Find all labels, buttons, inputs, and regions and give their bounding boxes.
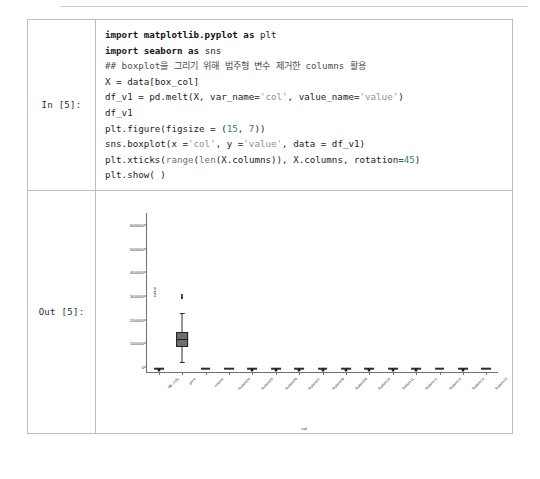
y-tick-label: 100000 bbox=[130, 341, 144, 346]
code-line-10: plt.show( ) bbox=[105, 169, 166, 180]
x-tick-label: feature15 bbox=[495, 377, 509, 391]
x-tick-mark bbox=[299, 372, 300, 375]
x-tick-label: feature09 bbox=[354, 377, 368, 391]
code-line-2: import seaborn as sns bbox=[105, 45, 221, 56]
code-line-7: plt.figure(figsize = (15, 7)) bbox=[105, 123, 265, 134]
x-tick-mark bbox=[252, 372, 253, 375]
x-tick-mark bbox=[159, 372, 160, 375]
code-editor[interactable]: import matplotlib.pyplot as plt import s… bbox=[105, 27, 512, 183]
y-tick-label: 600000 bbox=[130, 222, 144, 227]
x-tick-label: feature11 bbox=[401, 377, 414, 390]
x-tick-label: feature13 bbox=[448, 377, 462, 391]
y-axis-label: value bbox=[152, 287, 157, 297]
output-cell-row: Out [5]: value 0100000200000300000400000… bbox=[28, 191, 512, 433]
x-tick-label: feature10 bbox=[378, 377, 392, 391]
x-tick-label: feature05 bbox=[261, 377, 275, 391]
box-flat bbox=[481, 368, 491, 369]
notebook-cells-table: In [5]: import matplotlib.pyplot as plt … bbox=[27, 19, 513, 434]
code-cell[interactable]: import matplotlib.pyplot as plt import s… bbox=[96, 20, 512, 190]
output-cell: value 0100000200000300000400000500000600… bbox=[96, 191, 512, 433]
box-flat bbox=[224, 368, 234, 369]
y-tick-mark bbox=[144, 248, 147, 249]
x-tick-mark bbox=[323, 372, 324, 375]
y-tick-mark bbox=[144, 272, 147, 273]
x-tick-mark bbox=[416, 372, 417, 375]
boxplot-axes: value 0100000200000300000400000500000600… bbox=[146, 213, 498, 373]
code-line-4: X = data[box_col] bbox=[105, 76, 199, 87]
input-prompt-gutter: In [5]: bbox=[28, 20, 96, 190]
y-tick-mark bbox=[144, 343, 147, 344]
input-prompt-label: In [5]: bbox=[41, 100, 81, 110]
x-tick-mark bbox=[440, 372, 441, 375]
box-outlier bbox=[461, 369, 464, 372]
x-tick-label: feature06 bbox=[284, 377, 298, 391]
input-cell-row: In [5]: import matplotlib.pyplot as plt … bbox=[28, 20, 512, 191]
y-tick-label: 400000 bbox=[130, 270, 144, 275]
code-line-1: import matplotlib.pyplot as plt bbox=[105, 29, 277, 40]
box-outlier bbox=[415, 369, 418, 372]
matplotlib-figure: value 0100000200000300000400000500000600… bbox=[96, 191, 512, 433]
y-tick-mark bbox=[144, 295, 147, 296]
x-tick-label: feature12 bbox=[425, 377, 439, 391]
x-axis-label: col bbox=[301, 426, 306, 431]
x-tick-mark bbox=[463, 372, 464, 375]
y-tick-label: 500000 bbox=[130, 246, 144, 251]
x-tick-mark bbox=[369, 372, 370, 375]
x-tick-label: feature14 bbox=[471, 377, 485, 391]
x-tick-mark bbox=[182, 372, 183, 375]
x-tick-mark bbox=[229, 372, 230, 375]
notebook-page: In [5]: import matplotlib.pyplot as plt … bbox=[0, 0, 540, 479]
y-tick-label: 300000 bbox=[130, 293, 144, 298]
code-line-6: df_v1 bbox=[105, 107, 133, 118]
x-tick-label: Mjr_crds bbox=[167, 377, 180, 390]
x-tick-mark bbox=[346, 372, 347, 375]
box-whisker-cap bbox=[180, 362, 184, 363]
y-tick-mark bbox=[144, 319, 147, 320]
box-outlier bbox=[157, 369, 160, 372]
box-outlier bbox=[344, 369, 347, 372]
code-line-5: df_v1 = pd.melt(X, var_name='col', value… bbox=[105, 91, 404, 102]
output-prompt-gutter: Out [5]: bbox=[28, 191, 96, 433]
x-tick-mark bbox=[206, 372, 207, 375]
box-outlier bbox=[274, 369, 277, 372]
box-flat bbox=[435, 368, 445, 369]
x-tick-label: volume bbox=[213, 377, 224, 388]
code-line-8: sns.boxplot(x ='col', y ='value', data =… bbox=[105, 138, 365, 149]
x-tick-mark bbox=[276, 372, 277, 375]
y-tick-label: 200000 bbox=[130, 317, 144, 322]
y-tick-mark bbox=[144, 367, 147, 368]
x-tick-label: feature04 bbox=[237, 377, 251, 391]
output-prompt-label: Out [5]: bbox=[39, 307, 85, 317]
code-line-9: plt.xticks(range(len(X.columns)), X.colu… bbox=[105, 154, 420, 165]
box-outlier bbox=[251, 369, 254, 372]
x-tick-label: feature08 bbox=[331, 377, 345, 391]
box-outlier bbox=[321, 369, 324, 372]
y-tick-mark bbox=[144, 224, 147, 225]
page-top-divider bbox=[60, 6, 528, 7]
code-line-3: ## boxplot을 그리기 위해 범주형 변수 제거한 columns 활용 bbox=[105, 60, 366, 71]
box-outlier bbox=[368, 369, 371, 372]
box-outlier bbox=[391, 369, 394, 372]
box-outlier bbox=[298, 369, 301, 372]
x-tick-mark bbox=[393, 372, 394, 375]
box-median bbox=[177, 339, 187, 340]
x-tick-label: feature07 bbox=[308, 377, 322, 391]
box-whisker-cap bbox=[180, 313, 184, 314]
box-flat bbox=[201, 368, 211, 369]
x-tick-mark bbox=[486, 372, 487, 375]
x-tick-label: price bbox=[188, 377, 196, 385]
